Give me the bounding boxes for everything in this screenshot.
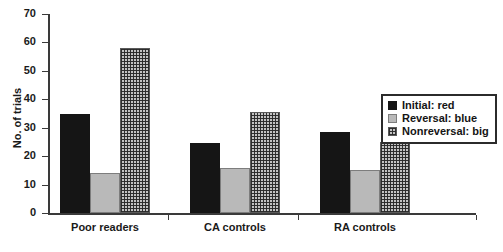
bar-chart: No. of trials 706050403020100 Poor reade… xyxy=(0,0,503,252)
legend-swatch-initial-icon xyxy=(388,101,397,110)
y-tick-mark xyxy=(42,128,48,129)
x-category-label: Poor readers xyxy=(45,221,165,233)
y-tick-label: 60 xyxy=(10,36,36,47)
bar-initial xyxy=(190,143,220,213)
legend-item: Nonreversal: big xyxy=(388,125,489,138)
legend-swatch-reversal-icon xyxy=(388,114,397,123)
legend-item: Reversal: blue xyxy=(388,112,489,125)
y-tick-mark xyxy=(42,71,48,72)
y-tick-mark xyxy=(42,14,48,15)
bar-nonreversal xyxy=(380,142,410,213)
legend-label: Initial: red xyxy=(402,99,455,112)
y-tick-label: 30 xyxy=(10,122,36,133)
bar-nonreversal xyxy=(250,112,280,213)
legend-label: Reversal: blue xyxy=(402,112,477,125)
y-tick-mark xyxy=(42,213,48,214)
bar-initial xyxy=(320,132,350,213)
y-tick-label: 10 xyxy=(10,179,36,190)
y-tick-label: 40 xyxy=(10,93,36,104)
x-axis-line xyxy=(48,213,476,215)
bar-nonreversal xyxy=(120,48,150,213)
bar-initial xyxy=(60,114,90,214)
y-tick-mark xyxy=(42,42,48,43)
bar-group xyxy=(190,14,280,213)
x-tick-mark xyxy=(168,215,169,220)
chart-legend: Initial: red Reversal: blue Nonreversal:… xyxy=(381,94,497,144)
x-category-label: CA controls xyxy=(175,221,295,233)
y-tick-label: 70 xyxy=(10,8,36,19)
x-category-label: RA controls xyxy=(305,221,425,233)
bar-reversal xyxy=(220,168,250,213)
legend-item: Initial: red xyxy=(388,99,489,112)
bar-reversal xyxy=(350,170,380,213)
y-tick-mark xyxy=(42,99,48,100)
y-tick-label: 0 xyxy=(10,207,36,218)
bar-reversal xyxy=(90,173,120,213)
y-tick-label: 20 xyxy=(10,150,36,161)
x-tick-mark xyxy=(476,215,477,220)
legend-swatch-nonreversal-icon xyxy=(388,127,397,136)
y-tick-mark xyxy=(42,156,48,157)
x-tick-mark xyxy=(298,215,299,220)
y-tick-label: 50 xyxy=(10,65,36,76)
bar-group xyxy=(60,14,150,213)
legend-label: Nonreversal: big xyxy=(402,125,489,138)
y-tick-mark xyxy=(42,185,48,186)
